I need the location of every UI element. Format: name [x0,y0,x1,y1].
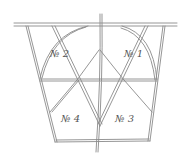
diagram-svg: № 1 № 2 № 3 № 4 [0,0,188,162]
apex-right [100,50,124,80]
diagonal-right-long-inner [98,26,145,124]
apex-left [77,50,99,80]
diagram: № 1 № 2 № 3 № 4 [0,0,188,162]
left-side [26,26,55,142]
left-side-inner [28,26,57,142]
diagonal-left-long-inner [55,26,102,124]
lower-left-diagonal [50,80,77,112]
lower-left-diagonal-inner [52,80,79,112]
right-side [150,26,165,141]
label-region-1: № 1 [123,48,143,59]
bottom-edge-inner [56,139,149,140]
diagonal-left-long [52,26,100,126]
apex-right-extend [124,80,152,112]
label-region-4: № 4 [60,113,80,124]
label-region-3: № 3 [114,113,134,124]
right-side-inner [148,26,163,141]
diagonal-right-long [100,26,148,126]
label-region-2: № 2 [49,48,69,59]
bottom-edge [55,141,150,142]
